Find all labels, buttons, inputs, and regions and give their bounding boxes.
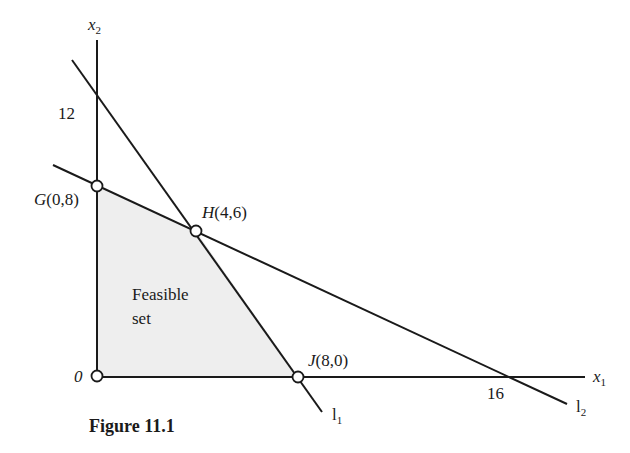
point-H-label: H(4,6) xyxy=(201,203,247,222)
region-label-line2: set xyxy=(132,309,151,328)
y-tick-12: 12 xyxy=(58,104,75,123)
origin-label: 0 xyxy=(74,367,83,386)
feasible-region xyxy=(97,186,298,377)
vertex-origin xyxy=(92,371,103,382)
x-tick-16: 16 xyxy=(487,384,504,403)
x-axis-label: x1 xyxy=(592,367,606,388)
vertex-H xyxy=(191,226,202,237)
vertex-J xyxy=(293,372,304,383)
line-l1-label: l1 xyxy=(332,405,342,426)
point-G-label: G(0,8) xyxy=(34,190,79,209)
line-l2-label: l2 xyxy=(576,397,586,418)
feasible-set-diagram: x2 x1 12 16 0 G(0,8) H(4,6) J(8,0) l1 l2… xyxy=(0,0,630,453)
y-axis-label: x2 xyxy=(87,15,101,36)
region-label-line1: Feasible xyxy=(132,285,189,304)
point-J-label: J(8,0) xyxy=(308,351,348,370)
vertex-G xyxy=(92,181,103,192)
figure-caption: Figure 11.1 xyxy=(89,416,175,436)
